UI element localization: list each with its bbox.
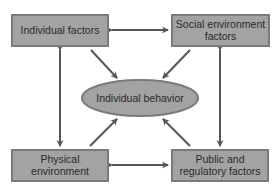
behavior-factors-diagram: Individual factors Social environment fa… [0,0,278,188]
edge-individual-to-behavior [91,50,117,78]
node-physical-environment-label-line2: environment [31,165,89,177]
node-social-environment-label-line1: Social environment [176,18,265,30]
node-public-regulatory-label-line1: Public and [195,153,244,165]
node-public-regulatory-factors: Public and regulatory factors [172,150,268,181]
node-physical-environment: Physical environment [12,150,108,181]
node-physical-environment-label-line1: Physical [40,153,79,165]
node-individual-factors: Individual factors [12,15,108,46]
edge-public-to-behavior [163,119,190,146]
node-social-environment-label-line2: factors [205,30,237,42]
node-individual-behavior: Individual behavior [82,80,198,116]
node-social-environment-factors: Social environment factors [172,15,269,46]
node-individual-behavior-label: Individual behavior [96,92,184,104]
edge-physical-to-behavior [90,119,117,146]
node-public-regulatory-label-line2: regulatory factors [179,165,260,177]
edge-social-to-behavior [163,50,190,78]
node-individual-factors-label: Individual factors [21,24,100,36]
